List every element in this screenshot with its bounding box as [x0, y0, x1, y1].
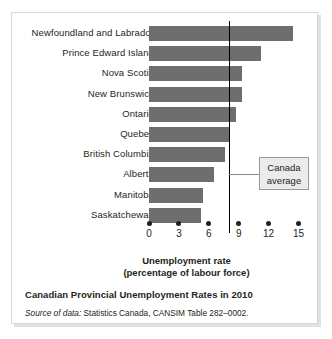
- bar-row: Quebec: [12, 124, 312, 144]
- canada-average-label-line1: Canada: [260, 161, 308, 174]
- bar: [149, 107, 236, 122]
- category-label: New Brunswick: [88, 84, 154, 104]
- chart-plot-area: Newfoundland and LabradorPrince Edward I…: [12, 13, 319, 238]
- figure-source-detail: Statistics Canada, CANSIM Table 282–0002…: [81, 308, 248, 318]
- canada-average-label: Canada average: [259, 157, 309, 190]
- figure-source-lead: Source of data:: [25, 308, 81, 318]
- divider: [24, 285, 307, 286]
- axis-tick-label: 6: [196, 228, 222, 239]
- figure-caption: Canadian Provincial Unemployment Rates i…: [25, 289, 308, 300]
- axis-tick-label: 9: [226, 228, 252, 239]
- axis-tick-label: 3: [166, 228, 192, 239]
- bar: [149, 26, 293, 41]
- x-axis-title-line1: Unemployment rate: [54, 255, 319, 267]
- axis-tick-dot: [176, 221, 181, 226]
- bar-row: Prince Edward Island: [12, 43, 312, 63]
- bar-row: Ontario: [12, 104, 312, 124]
- category-label: Nova Scotia: [102, 63, 154, 83]
- axis-tick-label: 0: [136, 228, 162, 239]
- bar: [149, 147, 225, 162]
- bar-row: Nova Scotia: [12, 63, 312, 83]
- figure-source: Source of data: Statistics Canada, CANSI…: [25, 308, 310, 318]
- axis-tick-dot: [296, 221, 301, 226]
- canada-average-line: [229, 21, 231, 233]
- bar-row: New Brunswick: [12, 84, 312, 104]
- figure-panel: Newfoundland and LabradorPrince Edward I…: [11, 12, 318, 324]
- axis-tick-dot: [266, 221, 271, 226]
- x-axis-title-line2: (percentage of labour force): [54, 267, 319, 279]
- bar: [149, 127, 229, 142]
- axis-tick-dot: [206, 221, 211, 226]
- bar: [149, 188, 203, 203]
- category-label: Prince Edward Island: [62, 43, 154, 63]
- category-label: Newfoundland and Labrador: [32, 23, 154, 43]
- canada-average-label-line2: average: [260, 174, 308, 187]
- bar-row: Newfoundland and Labrador: [12, 23, 312, 43]
- axis-tick-dot: [236, 221, 241, 226]
- canada-average-connector: [229, 174, 259, 175]
- category-label: British Columbia: [83, 144, 154, 164]
- bar: [149, 46, 261, 61]
- bar: [149, 167, 214, 182]
- axis-tick-dot: [147, 221, 152, 226]
- axis-tick-label: 12: [256, 228, 282, 239]
- axis-tick-label: 15: [286, 228, 312, 239]
- x-axis-title: Unemployment rate (percentage of labour …: [12, 255, 319, 279]
